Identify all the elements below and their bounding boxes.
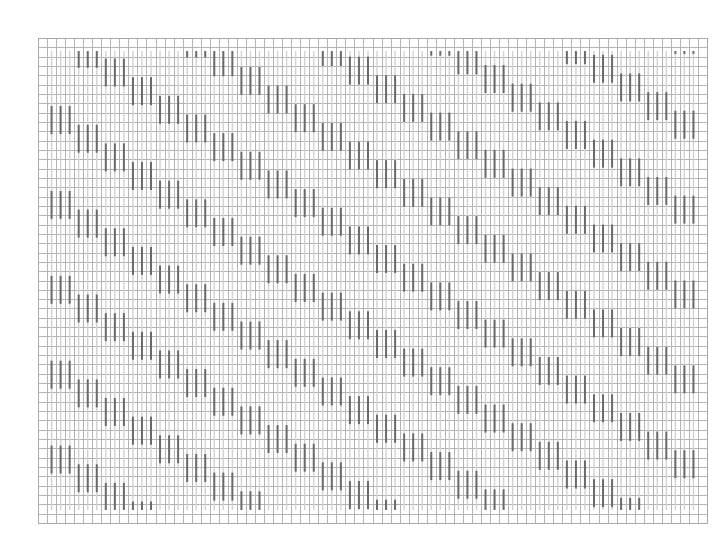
stitch-chart-canvas <box>0 0 722 556</box>
pattern-stitches <box>52 51 694 510</box>
grid <box>38 38 708 524</box>
background-stitches <box>52 51 694 510</box>
stitch-chart <box>0 0 722 556</box>
